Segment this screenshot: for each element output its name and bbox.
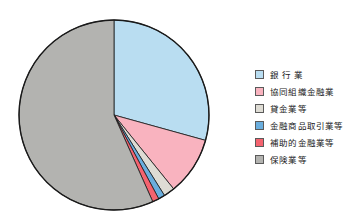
legend-swatch-cooperative-finance (255, 87, 264, 96)
pie-svg (0, 0, 240, 224)
legend-item-cooperative-finance: 協同組織金融業 (255, 83, 355, 100)
legend-label-money-lending: 貸金業等 (270, 104, 307, 114)
legend-item-auxiliary-finance: 補助的金融業等 (255, 134, 355, 151)
legend-swatch-money-lending (255, 104, 264, 113)
pie-plot-area (0, 0, 240, 224)
pie-slices (19, 20, 209, 210)
legend-swatch-auxiliary-finance (255, 138, 264, 147)
legend-item-banking: 銀 行 業 (255, 66, 355, 83)
legend-label-cooperative-finance: 協同組織金融業 (270, 87, 334, 97)
legend-item-financial-instruments: 金融商品取引業等 (255, 117, 355, 134)
legend-item-insurance: 保険業等 (255, 151, 355, 168)
chart-legend: 銀 行 業 協同組織金融業 貸金業等 金融商品取引業等 補助的金融業等 保険業等 (255, 66, 355, 168)
legend-label-insurance: 保険業等 (270, 155, 307, 165)
legend-swatch-financial-instruments (255, 121, 264, 130)
pie-chart-figure: 銀 行 業 協同組織金融業 貸金業等 金融商品取引業等 補助的金融業等 保険業等 (0, 0, 356, 224)
legend-item-money-lending: 貸金業等 (255, 100, 355, 117)
legend-swatch-banking (255, 70, 264, 79)
legend-label-auxiliary-finance: 補助的金融業等 (270, 138, 334, 148)
legend-label-financial-instruments: 金融商品取引業等 (270, 121, 344, 131)
legend-swatch-insurance (255, 155, 264, 164)
legend-label-banking: 銀 行 業 (270, 70, 303, 80)
